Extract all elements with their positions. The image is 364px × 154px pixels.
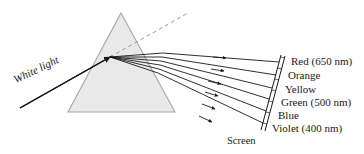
spectrum-label-blue: Blue xyxy=(278,110,299,121)
spectrum-label-yellow: Yellow xyxy=(285,84,316,95)
prism-shape xyxy=(68,13,175,112)
spectrum-label-green: Green (500 nm) xyxy=(281,97,351,108)
spectrum-label-violet: Violet (400 nm) xyxy=(272,123,342,134)
spectrum-label-red: Red (650 nm) xyxy=(291,56,352,67)
screen-label: Screen xyxy=(227,136,256,147)
ray-blue xyxy=(159,69,266,111)
ray-yellow xyxy=(161,61,272,88)
spectrum-label-orange: Orange xyxy=(288,70,320,81)
dispersed-rays xyxy=(158,53,279,123)
prism-dispersion-figure: White light Red (650 nm) Orange Yellow G… xyxy=(0,0,364,154)
ray-orange xyxy=(162,57,276,75)
